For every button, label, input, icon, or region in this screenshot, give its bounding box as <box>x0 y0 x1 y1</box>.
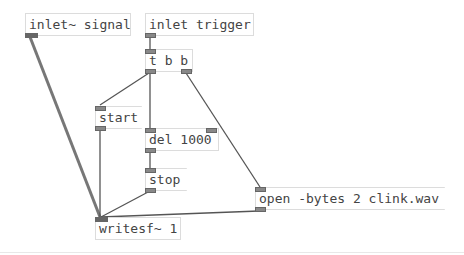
signal-wire-inlet-to-writesf[interactable] <box>30 37 100 217</box>
inlet-port[interactable] <box>95 106 106 111</box>
outlet-port[interactable] <box>95 126 106 131</box>
object-inlet-trigger[interactable]: inlet trigger <box>145 13 254 36</box>
message-text: start <box>99 110 138 125</box>
inlet-port[interactable] <box>206 128 217 133</box>
message-text: stop <box>149 172 180 187</box>
object-text: writesf~ 1 <box>99 221 177 236</box>
wire-stop-to-writesf[interactable] <box>101 191 150 217</box>
object-text: t b b <box>149 53 188 68</box>
inlet-port[interactable] <box>145 49 156 54</box>
window-bottom-edge <box>0 252 464 253</box>
outlet-port[interactable] <box>145 33 156 38</box>
outlet-port[interactable] <box>145 69 156 74</box>
outlet-port[interactable] <box>145 188 156 193</box>
message-open-file[interactable]: open -bytes 2 clink.wav <box>255 187 444 210</box>
inlet-port[interactable] <box>145 128 156 133</box>
outlet-port[interactable] <box>181 69 192 74</box>
inlet-port[interactable] <box>95 217 108 222</box>
outlet-port[interactable] <box>145 148 156 153</box>
inlet-port[interactable] <box>255 187 266 192</box>
message-text: open -bytes 2 clink.wav <box>259 191 439 206</box>
inlet-port[interactable] <box>145 168 156 173</box>
object-text: inlet~ signal <box>29 17 131 32</box>
wire-tbb-to-start[interactable] <box>100 73 149 105</box>
object-text: del 1000 <box>149 132 212 147</box>
outlet-port[interactable] <box>25 33 38 38</box>
outlet-port[interactable] <box>255 207 266 212</box>
object-text: inlet trigger <box>149 17 251 32</box>
object-inlet-signal[interactable]: inlet~ signal <box>25 13 131 36</box>
patch-canvas[interactable] <box>0 0 464 255</box>
